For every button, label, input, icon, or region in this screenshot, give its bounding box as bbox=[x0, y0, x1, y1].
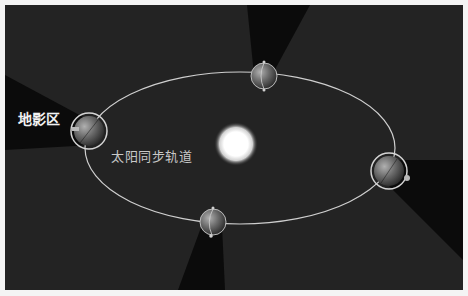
orbit-diagram bbox=[5, 5, 463, 290]
shadow-cone-top bbox=[247, 5, 310, 75]
diagram-canvas: 地影区 太阳同步轨道 bbox=[5, 5, 463, 290]
shadow-zone-label: 地影区 bbox=[18, 108, 60, 128]
earth-left-icon bbox=[71, 113, 107, 149]
orbit-label: 太阳同步轨道 bbox=[111, 146, 192, 165]
sun-icon bbox=[224, 132, 248, 156]
